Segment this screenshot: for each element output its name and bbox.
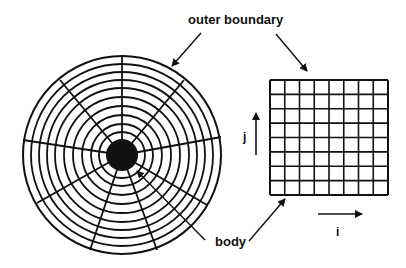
body-disc xyxy=(106,139,138,171)
outer-boundary-arrow-cartesian xyxy=(276,34,307,71)
body-arrow-polar xyxy=(137,171,205,240)
outer-boundary-arrow-polar xyxy=(172,33,201,66)
outer-boundary-label: outer boundary xyxy=(188,12,284,27)
grid-comparison-diagram: outer boundary body j i xyxy=(0,0,406,268)
body-label: body xyxy=(215,234,247,249)
diagram-canvas: outer boundary body j i xyxy=(0,0,406,268)
j-axis-label: j xyxy=(242,130,246,144)
i-axis-label: i xyxy=(336,225,339,239)
body-arrow-cartesian xyxy=(249,199,285,241)
cartesian-grid xyxy=(270,80,388,195)
